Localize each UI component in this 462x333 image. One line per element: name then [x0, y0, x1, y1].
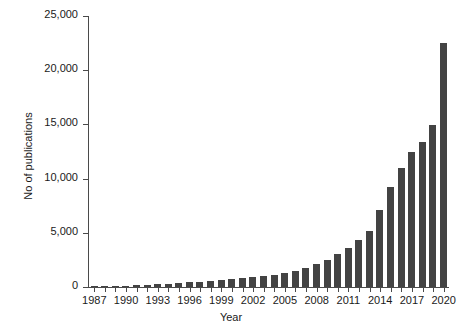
x-axis-tick-mark — [190, 288, 191, 292]
x-axis-tick-mark — [137, 288, 138, 292]
x-axis-tick-mark — [380, 288, 381, 292]
bar — [355, 240, 362, 287]
bar — [419, 142, 426, 287]
x-axis-tick-mark — [179, 288, 180, 292]
x-axis-tick-mark — [115, 288, 116, 292]
bar — [196, 282, 203, 287]
bar — [408, 152, 415, 288]
bar — [271, 275, 278, 287]
x-axis-tick-mark — [295, 288, 296, 292]
y-axis-tick-label: 10,000 — [44, 171, 78, 183]
bar — [175, 283, 182, 287]
bar — [228, 279, 235, 287]
plot-area — [89, 16, 449, 287]
x-axis-tick-label: 2020 — [424, 294, 462, 306]
bar — [112, 286, 119, 287]
bar — [218, 280, 225, 287]
bar — [345, 248, 352, 287]
bar — [133, 285, 140, 287]
bar — [281, 273, 288, 287]
y-axis-tick-label: 15,000 — [44, 116, 78, 128]
bar — [122, 286, 129, 287]
x-axis-tick-mark — [105, 288, 106, 292]
bar — [154, 284, 161, 287]
bar — [313, 264, 320, 287]
bar — [165, 284, 172, 287]
x-axis-tick-mark — [370, 288, 371, 292]
bar — [207, 281, 214, 287]
bar — [292, 271, 299, 287]
x-axis-tick-mark — [221, 288, 222, 292]
x-axis-tick-mark — [423, 288, 424, 292]
x-axis-tick-mark — [158, 288, 159, 292]
bar — [398, 168, 405, 287]
x-axis-tick-mark — [274, 288, 275, 292]
x-axis-tick-mark — [94, 288, 95, 292]
x-axis-tick-mark — [444, 288, 445, 292]
x-axis-line — [88, 287, 449, 288]
x-axis-tick-mark — [200, 288, 201, 292]
y-axis-tick-label: 0 — [72, 279, 78, 291]
bar — [186, 282, 193, 287]
bar — [429, 125, 436, 287]
x-axis-label: Year — [0, 311, 462, 323]
x-axis-tick-mark — [412, 288, 413, 292]
x-axis-tick-mark — [253, 288, 254, 292]
x-axis-tick-mark — [147, 288, 148, 292]
bar — [101, 286, 108, 287]
bar-chart: No of publications 05,00010,00015,00020,… — [0, 0, 462, 333]
bar — [144, 285, 151, 287]
x-axis-tick-mark — [317, 288, 318, 292]
x-axis-tick-mark — [401, 288, 402, 292]
bar — [440, 43, 447, 287]
x-axis-tick-mark — [168, 288, 169, 292]
y-axis-tick-label: 20,000 — [44, 62, 78, 74]
bar — [260, 276, 267, 287]
x-axis-tick-mark — [306, 288, 307, 292]
x-axis-tick-mark — [338, 288, 339, 292]
x-axis-tick-mark — [327, 288, 328, 292]
bar — [324, 260, 331, 287]
bar — [91, 286, 98, 287]
x-axis-tick-mark — [232, 288, 233, 292]
bar — [239, 278, 246, 287]
x-axis-tick-mark — [211, 288, 212, 292]
x-axis-tick-mark — [433, 288, 434, 292]
bar — [387, 187, 394, 287]
bar — [302, 268, 309, 288]
x-axis-tick-mark — [348, 288, 349, 292]
bar — [366, 231, 373, 287]
x-axis-tick-mark — [264, 288, 265, 292]
x-axis-tick-mark — [126, 288, 127, 292]
bar — [376, 210, 383, 287]
x-axis-tick-mark — [285, 288, 286, 292]
x-axis-tick-mark — [359, 288, 360, 292]
x-axis-tick-mark — [243, 288, 244, 292]
bar — [249, 277, 256, 287]
x-axis-tick-mark — [391, 288, 392, 292]
y-axis-tick-label: 5,000 — [50, 225, 78, 237]
bar — [334, 254, 341, 287]
y-axis-tick-label: 25,000 — [44, 8, 78, 20]
